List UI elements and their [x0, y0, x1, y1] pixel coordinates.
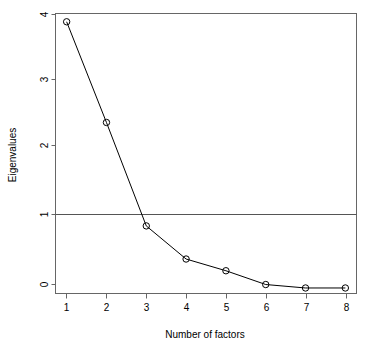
x-tick-label-3: 3: [144, 302, 150, 313]
y-tick-label-1: 1: [39, 211, 50, 217]
scree-plot-figure: 4 3 2 1 0 1 2 3 4 5 6 7 8: [0, 0, 373, 348]
scree-plot-screenshot: 4 3 2 1 0 1 2 3 4 5 6 7 8: [0, 0, 373, 348]
x-tick-label-7: 7: [304, 302, 310, 313]
x-tick-label-4: 4: [184, 302, 190, 313]
x-tick-label-6: 6: [264, 302, 270, 313]
x-tick-label-8: 8: [344, 302, 350, 313]
x-tick-label-1: 1: [64, 302, 70, 313]
y-tick-label-0: 0: [39, 281, 50, 287]
y-tick-label-2: 2: [39, 142, 50, 148]
x-axis-title: Number of factors: [165, 329, 244, 340]
y-tick-label-3: 3: [39, 76, 50, 82]
x-tick-label-2: 2: [104, 302, 110, 313]
y-axis-title: Eigenvalues: [7, 128, 18, 182]
x-tick-label-5: 5: [224, 302, 230, 313]
y-tick-label-4: 4: [39, 11, 50, 17]
